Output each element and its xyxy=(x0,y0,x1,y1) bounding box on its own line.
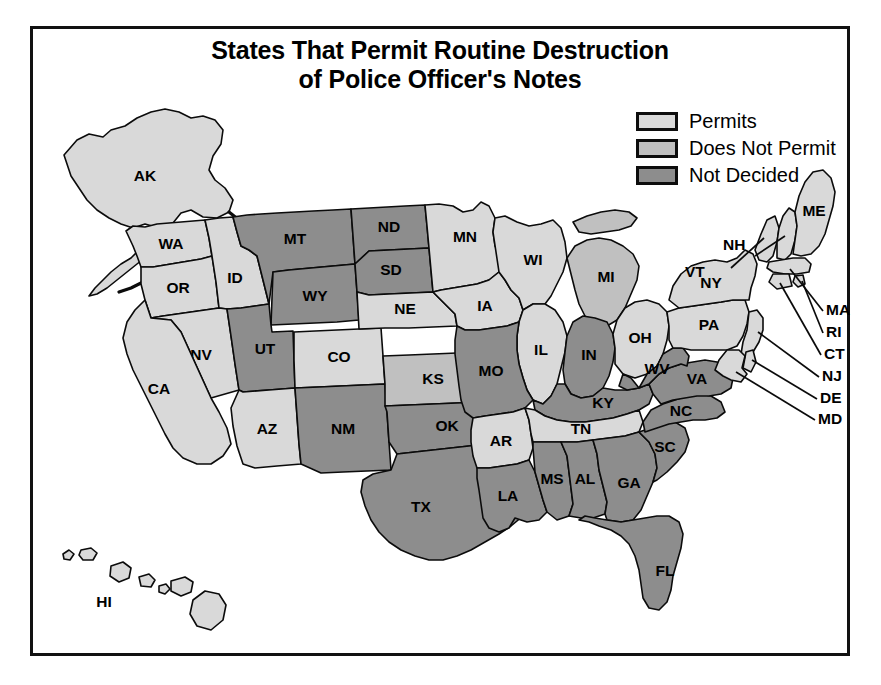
state-label-TN: TN xyxy=(571,420,592,437)
state-label-RI: RI xyxy=(826,323,842,340)
state-label-ND: ND xyxy=(378,218,400,235)
state-label-OK: OK xyxy=(435,417,459,434)
state-label-TX: TX xyxy=(411,498,431,515)
state-label-CA: CA xyxy=(148,380,170,397)
state-label-IA: IA xyxy=(477,297,493,314)
state-AZ[interactable]: AZ xyxy=(231,388,301,468)
state-label-MI: MI xyxy=(597,268,614,285)
state-label-ID: ID xyxy=(227,269,243,286)
state-label-WI: WI xyxy=(524,251,543,268)
state-label-NJ: NJ xyxy=(822,367,842,384)
state-label-NM: NM xyxy=(331,420,355,437)
state-label-NE: NE xyxy=(394,300,416,317)
state-label-ME: ME xyxy=(802,202,825,219)
state-label-OR: OR xyxy=(166,279,189,296)
state-CT[interactable] xyxy=(769,274,792,289)
state-label-HI: HI xyxy=(96,593,112,610)
state-AR[interactable]: AR xyxy=(471,408,533,468)
state-label-MD: MD xyxy=(818,410,842,427)
state-label-GA: GA xyxy=(617,474,640,491)
state-label-AK: AK xyxy=(134,167,157,184)
state-VT[interactable] xyxy=(755,216,779,262)
state-label-AZ: AZ xyxy=(257,420,278,437)
state-label-KS: KS xyxy=(422,370,444,387)
state-label-WY: WY xyxy=(303,287,329,304)
state-MA[interactable] xyxy=(767,258,811,274)
state-label-IL: IL xyxy=(534,341,548,358)
us-map-svg: AK HI WA OR xyxy=(33,60,848,650)
state-NY[interactable]: NY xyxy=(669,250,757,308)
state-label-PA: PA xyxy=(699,316,719,333)
state-FL[interactable]: FL xyxy=(579,516,683,610)
state-NC[interactable]: NC xyxy=(643,394,725,432)
state-label-DE: DE xyxy=(820,389,842,406)
state-NM[interactable]: NM xyxy=(295,384,391,473)
state-label-OH: OH xyxy=(628,329,651,346)
state-label-WA: WA xyxy=(159,235,184,252)
leader-MD xyxy=(736,372,815,420)
state-label-VT: VT xyxy=(685,263,705,280)
state-IN[interactable]: IN xyxy=(563,316,615,398)
state-label-SC: SC xyxy=(654,438,676,455)
state-label-SD: SD xyxy=(380,261,402,278)
state-ME[interactable]: ME xyxy=(793,170,835,256)
state-label-MO: MO xyxy=(479,362,504,379)
state-label-VA: VA xyxy=(687,370,707,387)
state-label-MT: MT xyxy=(284,230,307,247)
state-SD[interactable]: SD xyxy=(355,248,433,295)
us-map: AK HI WA OR xyxy=(33,60,848,650)
figure-root: States That Permit Routine Destruction o… xyxy=(0,0,881,685)
state-label-IN: IN xyxy=(581,346,597,363)
state-label-NC: NC xyxy=(670,402,692,419)
state-label-MA: MA xyxy=(826,301,850,318)
state-CO[interactable]: CO xyxy=(294,328,385,388)
state-label-MS: MS xyxy=(540,470,563,487)
state-label-CT: CT xyxy=(824,345,845,362)
state-HI[interactable]: HI xyxy=(63,548,226,630)
state-label-UT: UT xyxy=(255,340,276,357)
state-label-KY: KY xyxy=(592,394,614,411)
state-WY[interactable]: WY xyxy=(271,264,359,325)
state-label-FL: FL xyxy=(656,562,675,579)
state-label-MN: MN xyxy=(453,228,477,245)
leader-DE xyxy=(752,360,817,399)
state-label-NH: NH xyxy=(723,236,745,253)
state-label-AL: AL xyxy=(575,470,596,487)
leader-NJ xyxy=(758,332,819,377)
state-label-AR: AR xyxy=(490,432,512,449)
leader-CT xyxy=(780,283,821,355)
state-label-WV: WV xyxy=(645,360,671,377)
state-label-CO: CO xyxy=(327,348,350,365)
state-label-LA: LA xyxy=(498,487,519,504)
